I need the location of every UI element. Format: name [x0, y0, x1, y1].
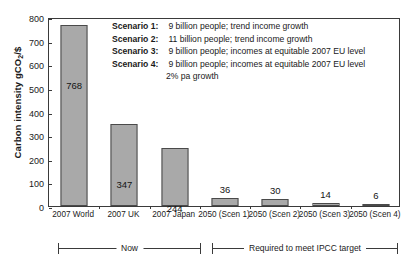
x-axis-label: 2007 World — [52, 210, 94, 219]
y-axis-tick-label: 300 — [10, 132, 49, 142]
scenario-row: Scenario 2: 11 billion people; trend inc… — [112, 33, 365, 46]
bar — [312, 203, 339, 206]
scenario-continuation-row: 2% pa growth — [112, 70, 365, 83]
x-axis-label: 2050 (Scen 1) — [198, 210, 249, 219]
y-axis-tick-label: 100 — [10, 179, 49, 189]
x-axis-tick — [300, 206, 301, 209]
bracket-cap-right — [200, 243, 201, 254]
bar — [111, 124, 138, 206]
x-axis-tick — [99, 206, 100, 209]
bar-group: 768 — [49, 19, 99, 206]
x-axis-label: 2007 UK — [107, 210, 139, 219]
bracket-now: Now — [58, 242, 201, 254]
bar — [362, 204, 389, 206]
bar — [61, 25, 88, 206]
bar-value-label: 768 — [66, 80, 82, 91]
y-axis-tick-label: 600 — [10, 61, 49, 71]
y-axis-title-subscript: 2 — [17, 55, 24, 59]
scenario-description: 9 billion people; incomes at equitable 2… — [166, 59, 365, 69]
scenario-key: Scenario 1: — [112, 20, 166, 33]
scenario-continuation: 2% pa growth — [166, 70, 219, 83]
y-axis-tick-label: 700 — [10, 38, 49, 48]
x-axis-label: 2007 Japan — [152, 210, 195, 219]
y-axis-tick-label: 500 — [10, 85, 49, 95]
scenario-legend: Scenario 1: 9 billion people; trend inco… — [112, 20, 365, 83]
bar — [161, 148, 188, 206]
scenario-description: 9 billion people; incomes at equitable 2… — [166, 46, 365, 56]
bar-value-label: 14 — [320, 189, 331, 200]
bracket-cap-left — [212, 243, 213, 254]
scenario-key: Scenario 3: — [112, 45, 166, 58]
scenario-key: Scenario 2: — [112, 33, 166, 46]
scenario-row: Scenario 1: 9 billion people; trend inco… — [112, 20, 365, 33]
y-axis-tick-label: 800 — [10, 14, 49, 24]
bracket-cap-left — [58, 243, 59, 254]
bar — [211, 198, 238, 207]
bar — [262, 199, 289, 206]
bracket-ipcc-target: Required to meet IPCC target — [212, 242, 398, 254]
bar-value-label: 36 — [220, 184, 231, 195]
scenario-key: Scenario 4: — [112, 58, 166, 71]
x-axis-label: 2050 (Scen 2) — [249, 210, 300, 219]
x-axis-tick — [250, 206, 251, 209]
x-axis-tick — [150, 206, 151, 209]
x-axis-label: 2050 (Scen 3) — [299, 210, 350, 219]
y-axis-tick-label: 0 — [10, 203, 49, 213]
bar-value-label: 6 — [373, 190, 378, 201]
scenario-row: Scenario 3: 9 billion people; incomes at… — [112, 45, 365, 58]
carbon-intensity-bar-chart: Carbon intensity gCO2/$ 8007006005004003… — [0, 0, 407, 267]
x-axis-tick — [351, 206, 352, 209]
x-axis-labels: 2007 World2007 UK2007 Japan2050 (Scen 1)… — [48, 210, 400, 226]
bracket-cap-right — [397, 243, 398, 254]
scenario-row: Scenario 4: 9 billion people; incomes at… — [112, 58, 365, 71]
scenario-description: 11 billion people; trend income growth — [166, 34, 313, 44]
y-axis-tick-label: 200 — [10, 156, 49, 166]
x-axis-label: 2050 (Scen 4) — [349, 210, 400, 219]
bracket-label: Required to meet IPCC target — [244, 242, 366, 254]
bar-value-label: 347 — [116, 179, 132, 190]
y-axis-tick-label: 400 — [10, 109, 49, 119]
x-axis-tick — [200, 206, 201, 209]
bar-value-label: 30 — [270, 185, 281, 196]
bracket-label: Now — [116, 242, 143, 254]
scenario-description: 9 billion people; trend income growth — [166, 21, 308, 31]
